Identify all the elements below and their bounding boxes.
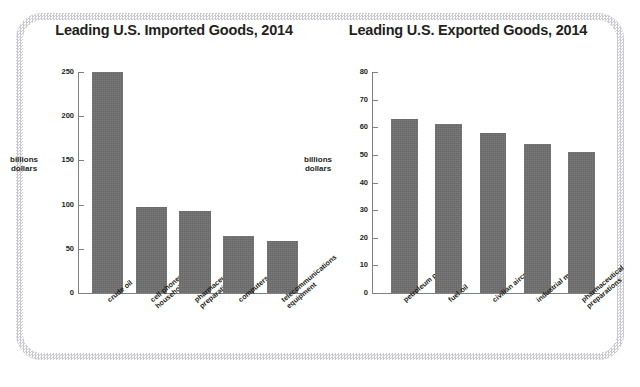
y-tick-label-imports-0: 0 xyxy=(48,288,74,297)
y-tick-label-imports-200: 200 xyxy=(48,111,74,120)
y-tick-label-exports-0: 0 xyxy=(342,288,368,297)
y-tick-imports-200 xyxy=(79,116,84,117)
y-tick-imports-100 xyxy=(79,205,84,206)
y-axis-caption-imports: billionsdollars xyxy=(3,156,45,174)
plot-area-imports: 050100150200250billionsdollarscrude oilc… xyxy=(24,22,324,352)
bar xyxy=(524,144,551,293)
y-tick-exports-50 xyxy=(373,155,378,156)
y-tick-label-imports-50: 50 xyxy=(48,244,74,253)
y-axis-caption-line: dollars xyxy=(3,165,45,174)
bar xyxy=(435,124,462,293)
bar xyxy=(92,72,123,293)
y-tick-exports-70 xyxy=(373,100,378,101)
y-tick-label-exports-30: 30 xyxy=(342,205,368,214)
plot-area-exports: 01020304050607080billionsdollarspetroleu… xyxy=(318,22,618,352)
y-tick-label-exports-50: 50 xyxy=(342,150,368,159)
y-tick-label-exports-60: 60 xyxy=(342,122,368,131)
y-tick-exports-10 xyxy=(373,265,378,266)
bar xyxy=(391,119,418,293)
y-axis-caption-exports: billionsdollars xyxy=(297,156,339,174)
y-tick-label-imports-150: 150 xyxy=(48,155,74,164)
y-tick-imports-150 xyxy=(79,160,84,161)
y-tick-label-exports-40: 40 xyxy=(342,178,368,187)
y-tick-label-exports-10: 10 xyxy=(342,260,368,269)
y-tick-label-exports-70: 70 xyxy=(342,95,368,104)
y-tick-label-exports-80: 80 xyxy=(342,67,368,76)
bar xyxy=(568,152,595,293)
figure-page: Leading U.S. Imported Goods, 2014 050100… xyxy=(0,0,640,387)
chart-panel-exports: Leading U.S. Exported Goods, 2014 010203… xyxy=(318,22,618,352)
y-tick-imports-50 xyxy=(79,249,84,250)
y-tick-label-imports-100: 100 xyxy=(48,200,74,209)
y-tick-exports-40 xyxy=(373,183,378,184)
y-tick-exports-80 xyxy=(373,72,378,73)
y-tick-label-imports-250: 250 xyxy=(48,67,74,76)
bar xyxy=(179,211,210,293)
y-axis-line-imports xyxy=(78,72,79,294)
chart-panel-imports: Leading U.S. Imported Goods, 2014 050100… xyxy=(24,22,324,352)
bar xyxy=(480,133,507,293)
y-tick-label-exports-20: 20 xyxy=(342,233,368,242)
y-tick-exports-60 xyxy=(373,127,378,128)
y-tick-exports-20 xyxy=(373,238,378,239)
y-tick-exports-30 xyxy=(373,210,378,211)
y-tick-imports-250 xyxy=(79,72,84,73)
bar xyxy=(136,207,167,293)
y-axis-caption-line: dollars xyxy=(297,165,339,174)
